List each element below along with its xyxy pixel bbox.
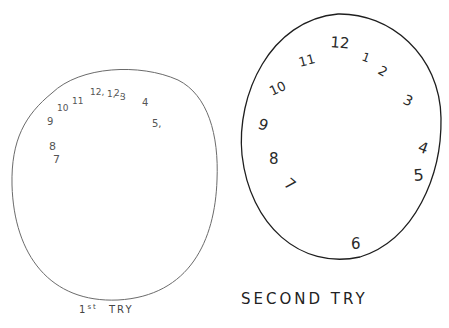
- clock-number: 8: [49, 140, 56, 153]
- clock-number: 12: [330, 33, 351, 53]
- clock-number: 12,: [90, 87, 104, 97]
- first-try-label: 1st TRY: [79, 303, 134, 315]
- clock-number: 11: [72, 96, 83, 106]
- clock-number: 5: [413, 165, 425, 185]
- clock-number: 9: [256, 115, 271, 135]
- drawing-canvas: 9101112,1,2,345,87 121234567891011: [0, 0, 449, 328]
- clock-number: 9: [47, 116, 53, 127]
- second-try-numbers: 121234567891011: [256, 33, 431, 253]
- clock-number: 2: [376, 63, 391, 80]
- clock-number: 3: [401, 91, 416, 109]
- clock-number: 4: [142, 97, 148, 108]
- clock-number: 11: [297, 51, 317, 70]
- first-try-label-word: TRY: [109, 304, 134, 315]
- clock-number: 7: [53, 153, 60, 166]
- clock-number: 1: [360, 50, 372, 66]
- clock-number: 4: [416, 138, 431, 158]
- clock-number: 10: [57, 103, 69, 113]
- clock-number: 10: [267, 78, 288, 99]
- clock-number: 7: [280, 174, 299, 194]
- first-try-clock-face: [12, 69, 217, 300]
- clock-number: 5,: [152, 118, 162, 129]
- second-try-label-text: SECOND TRY: [241, 290, 368, 308]
- first-try-label-suffix: st: [87, 303, 97, 311]
- clock-number: 8: [269, 150, 279, 168]
- clock-number: 6: [351, 235, 361, 253]
- second-try-label: SECOND TRY: [241, 290, 368, 308]
- clock-number: 3: [120, 92, 126, 102]
- first-try-numbers: 9101112,1,2,345,87: [47, 87, 162, 166]
